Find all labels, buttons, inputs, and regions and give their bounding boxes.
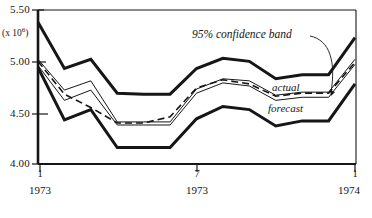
annotation-forecast: forecast [268,102,303,114]
chart-figure: 5.50 5.00 4.50 4.00 (x 106) 1 1973 7 197… [0,0,372,218]
y-tick-label-550: 5.50 [0,3,30,15]
y-tick-label-450: 4.50 [0,107,30,119]
series-lower-95-confidence-band [38,67,355,147]
series-layer [38,22,355,147]
annotation-confidence-band: 95% confidence band [192,28,292,40]
annotation-actual: actual [272,81,300,93]
annotation-leaders [310,36,335,96]
x-tick-number-1: 1 [26,168,54,179]
y-tick-label-500: 5.00 [0,55,30,67]
x-tick-year-1974: 1974 [326,184,372,196]
confidence-band-leader [310,36,333,92]
x-tick-number-7: 7 [183,168,211,179]
x-tick-year-1973-b: 1973 [174,184,220,196]
y-axis-units-label: (x 106) [2,26,28,38]
x-tick-number-13: 1 [341,168,369,179]
x-tick-year-1973-a: 1973 [17,184,63,196]
